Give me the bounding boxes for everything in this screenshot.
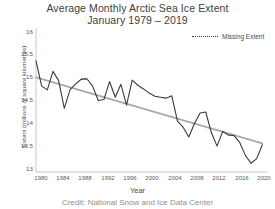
x-tick-1992: 1992 — [101, 175, 114, 181]
x-tick-1996: 1996 — [123, 175, 136, 181]
x-tick-2008: 2008 — [190, 175, 203, 181]
chart-credit: Credit: National Snow and Ice Data Cente… — [0, 198, 275, 207]
x-axis-label: Year — [0, 186, 275, 195]
x-tick-2004: 2004 — [168, 175, 181, 181]
chart-figure: Average Monthly Arctic Sea Ice Extent Ja… — [0, 0, 275, 209]
x-tick-1988: 1988 — [78, 175, 91, 181]
x-tick-1980: 1980 — [34, 175, 47, 181]
x-tick-2016: 2016 — [235, 175, 248, 181]
x-tick-2012: 2012 — [212, 175, 225, 181]
x-tick-1984: 1984 — [56, 175, 69, 181]
trend-line — [36, 77, 262, 143]
x-tick-2020: 2020 — [257, 175, 270, 181]
x-tick-2000: 2000 — [145, 175, 158, 181]
sea-ice-extent-line — [36, 61, 262, 163]
